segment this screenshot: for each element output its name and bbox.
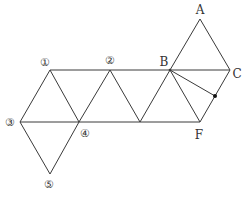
label-1: ① [40,56,50,69]
edge-5-4 [50,122,79,174]
edge-1-4 [50,70,79,122]
edge-m-b [140,70,170,122]
edge-b-f [170,70,200,122]
edges [20,19,230,174]
octahedron-net-diagram: A B C F ① ② ③ ④ ⑤ [0,0,245,208]
edge-3-5 [20,122,50,174]
label-2: ② [105,54,115,67]
label-3: ③ [5,116,15,129]
label-f: F [195,128,203,142]
label-4: ④ [80,127,90,140]
segment-b-to-point [170,70,215,96]
edge-2-m [110,70,140,122]
edge-b-a [170,19,200,70]
label-c: C [232,67,241,81]
vertex-b-dot [169,69,172,72]
edge-3-1 [20,70,50,122]
label-a: A [195,3,205,17]
label-b: B [160,55,169,69]
point-on-cf-dot [213,94,217,98]
edge-a-c [200,19,230,70]
edge-4-2 [79,70,110,122]
label-5: ⑤ [44,178,54,191]
vertex-labels: A B C F ① ② ③ ④ ⑤ [5,3,242,191]
